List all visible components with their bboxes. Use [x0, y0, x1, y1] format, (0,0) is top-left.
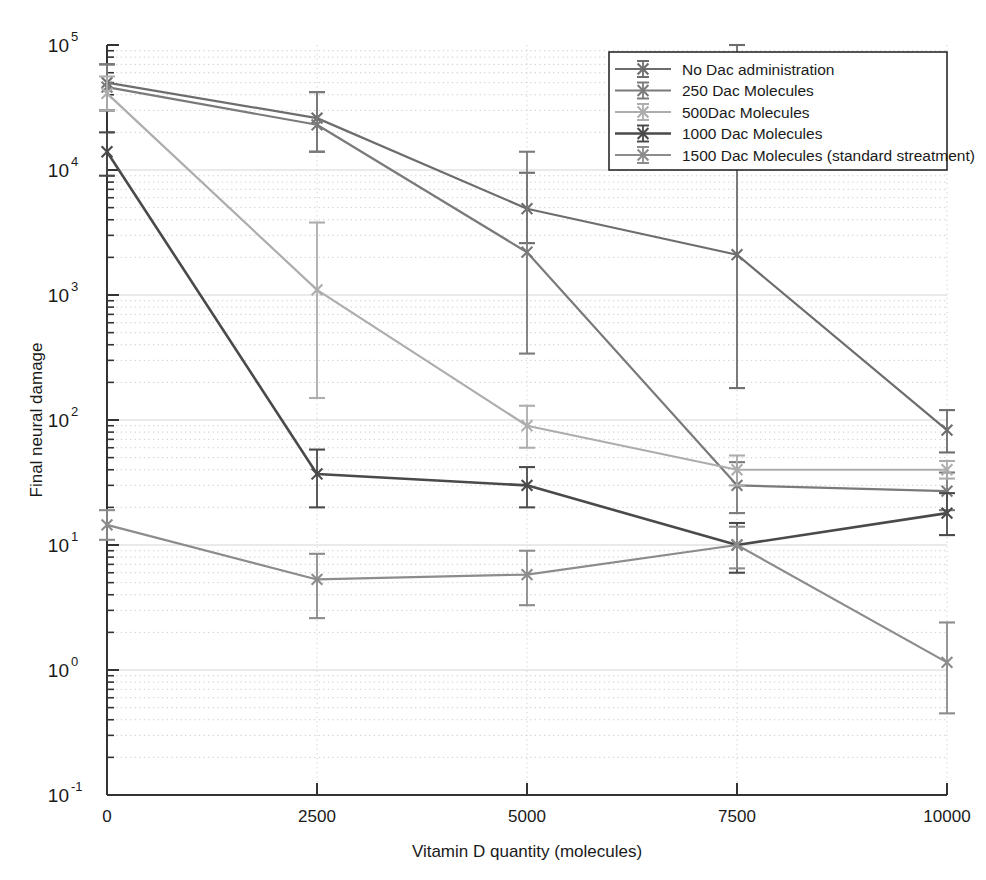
legend-label: 500Dac Molecules — [682, 104, 810, 121]
y-tick-label-exponent: 5 — [71, 29, 78, 44]
y-tick-label-exponent: 2 — [71, 404, 78, 419]
figure-container: 10-1100101102103104105025005000750010000… — [0, 0, 986, 880]
y-tick-label-exponent: 1 — [71, 529, 78, 544]
y-tick-label-exponent: 3 — [71, 279, 78, 294]
x-tick-label: 2500 — [298, 807, 336, 826]
x-tick-label: 0 — [102, 807, 111, 826]
legend-label: 1000 Dac Molecules — [682, 125, 823, 142]
y-tick-label-exponent: 0 — [71, 654, 78, 669]
y-tick-label-exponent: -1 — [71, 779, 83, 794]
y-tick-label-exponent: 4 — [71, 154, 78, 169]
legend: No Dac administration250 Dac Molecules50… — [609, 52, 975, 170]
y-tick-label-base: 10 — [48, 660, 69, 681]
y-tick-label-base: 10 — [48, 35, 69, 56]
y-tick-label-base: 10 — [48, 535, 69, 556]
line-chart: 10-1100101102103104105025005000750010000… — [0, 0, 986, 880]
x-tick-label: 5000 — [508, 807, 546, 826]
y-tick-label-base: 10 — [48, 285, 69, 306]
x-tick-label: 7500 — [718, 807, 756, 826]
y-axis-label: Final neural damage — [27, 343, 46, 498]
legend-label: 250 Dac Molecules — [682, 82, 814, 99]
x-axis-label: Vitamin D quantity (molecules) — [412, 842, 642, 861]
y-tick-label-base: 10 — [48, 410, 69, 431]
legend-label: 1500 Dac Molecules (standard streatment) — [682, 147, 975, 164]
y-tick-label-base: 10 — [48, 785, 69, 806]
y-tick-label-base: 10 — [48, 160, 69, 181]
legend-label: No Dac administration — [682, 61, 834, 78]
x-tick-label: 10000 — [923, 807, 970, 826]
